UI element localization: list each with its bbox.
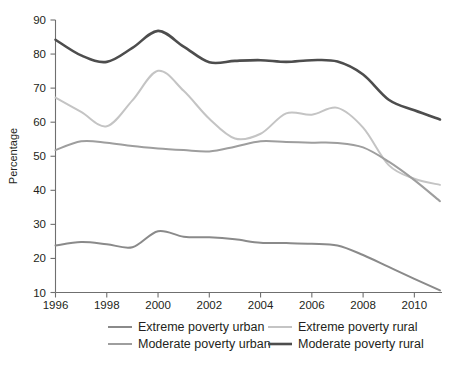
x-axis-tick-labels: 19961998200020022004200620082010 — [43, 299, 427, 311]
y-tick-label: 70 — [33, 82, 46, 94]
y-tick-label: 60 — [33, 116, 46, 128]
x-tick-label: 2002 — [197, 299, 223, 311]
y-tick-label: 80 — [33, 48, 46, 60]
y-tick-label: 50 — [33, 150, 46, 162]
x-tick-label: 1996 — [43, 299, 69, 311]
series-line-extreme-poverty-rural — [56, 71, 441, 185]
y-tick-label: 40 — [33, 184, 46, 196]
y-tick-label: 30 — [33, 218, 46, 230]
legend-label: Moderate poverty rural — [298, 337, 424, 351]
data-series-group — [56, 31, 441, 291]
x-axis: 19961998200020022004200620082010 — [43, 293, 442, 312]
y-axis: 102030405060708090 Percentage — [7, 14, 56, 299]
x-tick-label: 1998 — [94, 299, 120, 311]
series-line-moderate-poverty-rural — [56, 31, 441, 120]
series-line-moderate-poverty-urban — [56, 141, 441, 201]
y-axis-title: Percentage — [7, 128, 19, 184]
series-line-extreme-poverty-urban — [56, 231, 441, 291]
legend-label: Extreme poverty urban — [138, 320, 264, 334]
y-axis-tick-labels: 102030405060708090 — [33, 14, 46, 299]
x-tick-label: 2004 — [248, 299, 274, 311]
x-tick-label: 2000 — [145, 299, 171, 311]
chart-legend: Extreme poverty urbanExtreme poverty rur… — [108, 320, 424, 351]
x-axis-ticks — [56, 293, 415, 298]
legend-label: Extreme poverty rural — [298, 320, 417, 334]
legend-label: Moderate poverty urban — [138, 337, 271, 351]
y-axis-ticks — [51, 20, 56, 293]
x-tick-label: 2010 — [402, 299, 428, 311]
chart-container: 102030405060708090 Percentage 1996199820… — [0, 0, 454, 365]
line-chart: 102030405060708090 Percentage 1996199820… — [0, 0, 454, 365]
y-tick-label: 10 — [33, 287, 46, 299]
x-tick-label: 2006 — [299, 299, 325, 311]
y-tick-label: 90 — [33, 14, 46, 26]
x-tick-label: 2008 — [350, 299, 376, 311]
y-tick-label: 20 — [33, 252, 46, 264]
